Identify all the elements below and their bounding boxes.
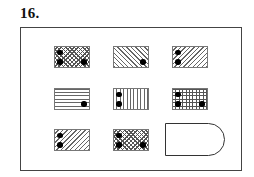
dot-icon xyxy=(116,101,122,107)
dot-icon xyxy=(116,142,122,148)
dot-icon xyxy=(57,50,63,56)
dot-icon xyxy=(175,50,181,56)
dot-icon xyxy=(175,101,181,107)
dot-icon xyxy=(116,92,122,98)
dot-icon xyxy=(140,59,146,65)
dot-icon xyxy=(57,133,63,139)
dot-icon xyxy=(57,142,63,148)
dot-icon xyxy=(81,59,87,65)
dot-icon xyxy=(57,59,63,65)
tile-r2c3-grid xyxy=(172,88,208,110)
tile-r3c2-crosshatch xyxy=(113,129,149,151)
tile-r1c2-backslash xyxy=(113,46,149,68)
tile-r2c1-horizontal xyxy=(54,88,90,110)
answer-slot[interactable] xyxy=(165,123,225,156)
dot-icon xyxy=(175,92,181,98)
dot-icon xyxy=(175,59,181,65)
tile-r2c2-vertical xyxy=(113,88,149,110)
dot-icon xyxy=(140,142,146,148)
tile-r3c1-forwardslash xyxy=(54,129,90,151)
tile-r1c1-crosshatch xyxy=(54,46,90,68)
dot-icon xyxy=(81,101,87,107)
tile-r1c3-forwardslash xyxy=(172,46,208,68)
dot-icon xyxy=(116,133,122,139)
question-number: 16. xyxy=(20,5,40,22)
dot-icon xyxy=(199,101,205,107)
